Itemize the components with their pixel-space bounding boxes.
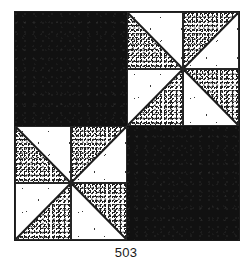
hst-unit-bottom-left <box>15 183 71 240</box>
stipple-triangle <box>128 70 182 125</box>
stipple-triangle <box>16 127 70 182</box>
stipple-triangle <box>72 127 126 182</box>
hst-unit-top-right <box>71 126 127 183</box>
hst-unit-top-left <box>127 12 183 69</box>
quilt-block <box>14 11 240 241</box>
hst-unit-top-right <box>183 12 239 69</box>
stipple-triangle <box>184 13 238 68</box>
stipple-triangle <box>184 70 238 125</box>
hst-unit-top-left <box>15 126 71 183</box>
hst-unit-bottom-right <box>183 69 239 126</box>
hst-unit-bottom-right <box>71 183 127 240</box>
quadrant-top-right <box>127 12 239 126</box>
stipple-triangle <box>128 13 182 68</box>
quadrant-bottom-left <box>15 126 127 240</box>
figure-caption: 503 <box>0 245 252 261</box>
hst-unit-bottom-left <box>127 69 183 126</box>
quadrant-bottom-right <box>127 126 239 240</box>
stipple-triangle <box>16 184 70 239</box>
figure-root: 503 <box>0 0 252 266</box>
quadrant-top-left <box>15 12 127 126</box>
stipple-triangle <box>72 184 126 239</box>
